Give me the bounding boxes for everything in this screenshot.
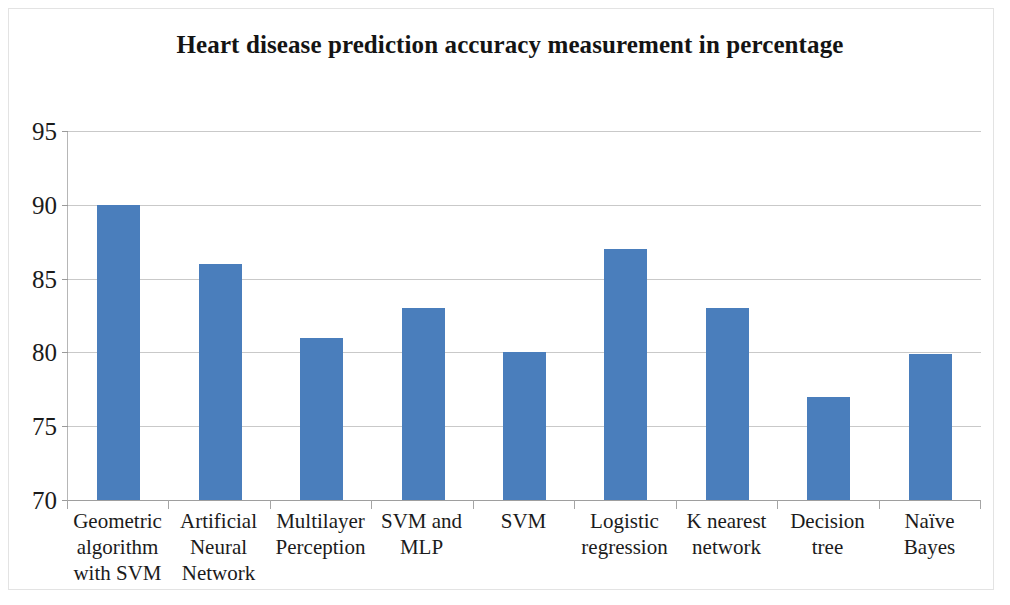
x-axis-tick-label-line: SVM: [473, 508, 574, 534]
gridline: [68, 131, 981, 132]
x-axis-tick-label-line: Bayes: [879, 534, 980, 560]
plot-area: [67, 131, 980, 500]
category-axis-line: [67, 500, 980, 501]
x-axis-tick-label-line: K nearest: [676, 508, 777, 534]
x-axis-tick-label-line: Network: [168, 560, 269, 586]
x-axis-tick-label-line: Decision: [777, 508, 878, 534]
y-axis-tick-labels: 959085807570: [0, 131, 57, 500]
y-axis-tick-label: 80: [11, 340, 57, 365]
bar: [503, 352, 546, 500]
x-axis-tick-label: Geometricalgorithmwith SVM: [67, 508, 168, 586]
x-axis-tick: [980, 500, 981, 509]
y-axis-tick-label: 90: [11, 193, 57, 218]
x-axis-tick-label-line: MLP: [371, 534, 472, 560]
bar: [300, 338, 343, 500]
bar: [97, 205, 140, 500]
bar: [706, 308, 749, 500]
y-axis-tick: [62, 205, 68, 206]
bar: [807, 397, 850, 500]
x-axis-tick-label-line: SVM and: [371, 508, 472, 534]
y-axis-tick-label: 75: [11, 414, 57, 439]
x-axis-tick-label: Decisiontree: [777, 508, 878, 560]
x-axis-tick-label: SVM andMLP: [371, 508, 472, 560]
x-axis-tick-label: NaïveBayes: [879, 508, 980, 560]
x-axis-tick-label-line: algorithm: [67, 534, 168, 560]
x-axis-tick-label-line: with SVM: [67, 560, 168, 586]
y-axis-tick: [62, 426, 68, 427]
bar: [604, 249, 647, 500]
x-axis-tick-label: SVM: [473, 508, 574, 534]
x-axis-tick-label-line: Naïve: [879, 508, 980, 534]
x-axis-tick-label: ArtificialNeuralNetwork: [168, 508, 269, 586]
x-axis-tick-label-line: tree: [777, 534, 878, 560]
x-axis-tick-label-line: regression: [574, 534, 675, 560]
y-axis-tick-label: 85: [11, 267, 57, 292]
x-axis-tick-label-line: Perception: [270, 534, 371, 560]
y-axis-tick-label: 95: [11, 119, 57, 144]
bar: [199, 264, 242, 500]
x-axis-tick-label-line: Logistic: [574, 508, 675, 534]
x-axis-tick-label-line: Neural: [168, 534, 269, 560]
x-axis-tick-label: MultilayerPerception: [270, 508, 371, 560]
y-axis-tick: [62, 352, 68, 353]
x-axis-tick-label-line: Artificial: [168, 508, 269, 534]
y-axis-tick-label: 70: [11, 488, 57, 513]
chart-title: Heart disease prediction accuracy measur…: [120, 28, 900, 61]
bar: [909, 354, 952, 500]
x-axis-tick-label-line: Multilayer: [270, 508, 371, 534]
x-axis-tick-labels: Geometricalgorithmwith SVMArtificialNeur…: [67, 508, 980, 592]
bar: [402, 308, 445, 500]
x-axis-tick-label-line: Geometric: [67, 508, 168, 534]
x-axis-tick-label-line: network: [676, 534, 777, 560]
gridline: [68, 205, 981, 206]
x-axis-tick-label: K nearestnetwork: [676, 508, 777, 560]
x-axis-tick-label: Logisticregression: [574, 508, 675, 560]
y-axis-tick: [62, 131, 68, 132]
y-axis-tick: [62, 279, 68, 280]
chart-figure: Heart disease prediction accuracy measur…: [0, 0, 1010, 605]
